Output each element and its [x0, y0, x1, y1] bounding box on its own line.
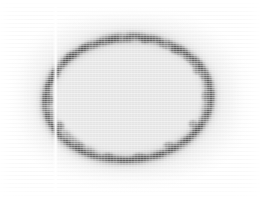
vertical-streak-artifact: [53, 6, 58, 192]
vertical-weave-texture: [0, 0, 260, 197]
scan-image-figure: [0, 0, 260, 197]
